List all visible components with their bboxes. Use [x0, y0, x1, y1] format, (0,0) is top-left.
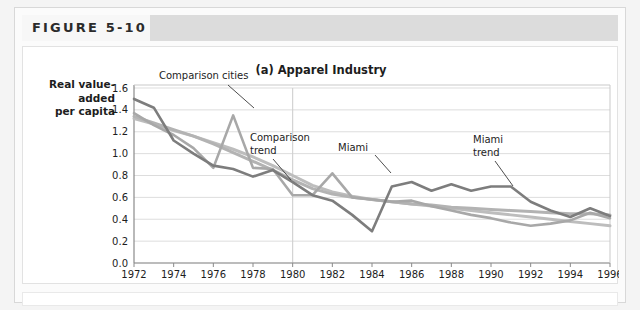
chart-plate: (a) Apparel Industry Real value- added p…: [22, 46, 618, 284]
y-tick-label: 0.6: [112, 192, 128, 203]
x-tick-label: 1980: [280, 269, 305, 280]
x-tick-label: 1986: [399, 269, 424, 280]
y-tick-label: 1.0: [112, 148, 128, 159]
y-tick-label: 1.2: [112, 126, 128, 137]
line-chart-plot: 0.00.20.40.60.81.01.21.41.6 197219741976…: [23, 47, 619, 285]
x-tick-label: 1990: [478, 269, 503, 280]
series-line-comparison-trend: [134, 119, 610, 226]
y-tick-labels-group: 0.00.20.40.60.81.01.21.41.6: [112, 83, 128, 269]
x-tick-label: 1992: [518, 269, 543, 280]
data-series-group: [134, 99, 610, 231]
y-tick-label: 1.4: [112, 104, 128, 115]
x-tick-label: 1982: [320, 269, 345, 280]
leader-line-miami-trend: [495, 161, 513, 186]
x-tick-label: 1974: [161, 269, 186, 280]
annotation-comparison-cities: Comparison cities: [159, 70, 248, 81]
y-tick-label: 0.8: [112, 170, 128, 181]
annotation-labels-group: Comparison citiesComparisontrendMiamiMia…: [159, 70, 503, 158]
x-tick-label: 1984: [359, 269, 384, 280]
y-tick-label: 1.6: [112, 83, 128, 94]
y-tick-label: 0.2: [112, 236, 128, 247]
figure-bottom-plate: [22, 292, 618, 306]
annotation-miami-trend: Miamitrend: [473, 134, 503, 158]
annotation-comparison-trend: Comparisontrend: [250, 132, 310, 156]
axis-lines-group: [134, 85, 610, 263]
gridlines-group: [134, 88, 610, 263]
x-tick-label: 1994: [558, 269, 583, 280]
series-line-comparison-cities: [134, 113, 610, 226]
x-tick-label: 1978: [240, 269, 265, 280]
x-tick-label: 1976: [201, 269, 226, 280]
x-tick-label: 1988: [439, 269, 464, 280]
leader-line-miami: [375, 155, 391, 173]
y-tick-label: 0.4: [112, 214, 128, 225]
y-tick-label: 0.0: [112, 258, 128, 269]
figure-number-label: FIGURE 5-10: [32, 20, 147, 35]
annotation-miami: Miami: [338, 142, 368, 153]
x-tick-label: 1972: [121, 269, 146, 280]
x-tick-labels-group: 1972197419761978198019821984198619881990…: [121, 263, 619, 280]
x-tick-label: 1996: [597, 269, 619, 280]
figure-root: FIGURE 5-10 (a) Apparel Industry Real va…: [0, 0, 640, 310]
